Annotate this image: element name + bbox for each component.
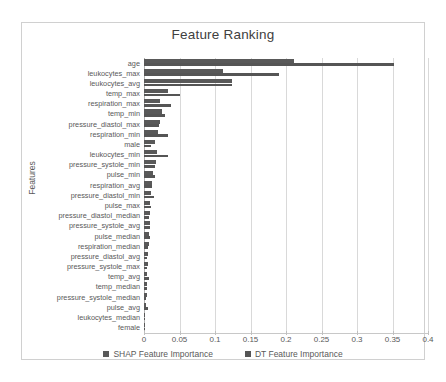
y-axis-tick-label: pressure_systole_max [56, 261, 143, 271]
y-axis-tick-label: pulse_min [56, 170, 143, 180]
bar-row [144, 160, 428, 170]
y-axis-tick-label: temp_max [56, 89, 143, 99]
bar-row [144, 241, 428, 251]
bar-dt [144, 94, 180, 97]
bar-dt [144, 196, 154, 199]
legend-swatch-icon [245, 351, 251, 357]
y-axis-tick-label: pressure_diastol_max [56, 119, 143, 129]
x-axis-tick-label: 0.25 [314, 335, 330, 344]
chart-legend: SHAP Feature ImportanceDT Feature Import… [22, 349, 424, 359]
x-axis-tick-label: 0.05 [172, 335, 188, 344]
y-axis-tick-label: leukocytes_min [56, 150, 143, 160]
bar-shap [144, 99, 160, 103]
bar-dt [144, 165, 155, 168]
y-axis-tick-label: pulse_avg [56, 302, 143, 312]
x-axis-tick-label: 0.1 [209, 335, 220, 344]
legend-swatch-icon [103, 351, 109, 357]
bar-shap [144, 171, 153, 175]
y-axis-tick-label: temp_min [56, 109, 143, 119]
bar-shap [144, 191, 151, 195]
bar-dt [144, 185, 152, 188]
y-axis-tick-label: pressure_diastol_avg [56, 251, 143, 261]
bar-shap [144, 232, 149, 236]
bar-shap [144, 303, 146, 307]
bar-row [144, 282, 428, 292]
y-axis-tick-label: respiration_max [56, 99, 143, 109]
bar-shap [144, 272, 147, 276]
bar-dt [144, 277, 149, 280]
bar-shap [144, 201, 150, 205]
y-axis-tick-label: pressure_diastol_median [56, 211, 143, 221]
y-axis-tick-label: leukocytes_max [56, 68, 143, 78]
bar-row [144, 150, 428, 160]
bar-row [144, 292, 428, 302]
bar-row [144, 190, 428, 200]
bar-shap [144, 89, 168, 93]
bar-dt [144, 257, 147, 260]
bar-shap [144, 69, 223, 73]
bar-row [144, 312, 428, 322]
bar-dt [144, 175, 155, 178]
bar-row [144, 251, 428, 261]
bar-row [144, 129, 428, 139]
y-axis-tick-labels: ageleukocytes_maxleukocytes_avgtemp_maxr… [56, 58, 143, 333]
bar-shap [144, 211, 150, 215]
y-axis-tick-label: respiration_avg [56, 180, 143, 190]
x-axis-tick-label: 0.4 [422, 335, 433, 344]
legend-item[interactable]: DT Feature Importance [245, 349, 343, 359]
bar-row [144, 302, 428, 312]
bar-dt [144, 328, 145, 331]
plot-area [144, 58, 428, 333]
bar-shap [144, 282, 147, 286]
bar-shap [144, 181, 152, 185]
bar-shap [144, 120, 160, 124]
x-axis-tick-label: 0.2 [280, 335, 291, 344]
bar-dt [144, 297, 146, 300]
y-axis-tick-label: respiration_min [56, 129, 143, 139]
y-axis-tick-label: leukocytes_avg [56, 78, 143, 88]
y-axis-tick-label: pressure_systole_min [56, 160, 143, 170]
bar-row [144, 261, 428, 271]
y-axis-tick-label: temp_avg [56, 272, 143, 282]
bar-shap [144, 130, 158, 134]
bar-shap [144, 293, 147, 297]
bar-dt [144, 84, 232, 87]
legend-item[interactable]: SHAP Feature Importance [103, 349, 213, 359]
y-axis-tick-label: pressure_diastol_min [56, 190, 143, 200]
bar-row [144, 231, 428, 241]
bar-shap [144, 221, 150, 225]
bar-shap [144, 79, 232, 83]
bar-row [144, 89, 428, 99]
x-axis-tick-label: 0.35 [385, 335, 401, 344]
y-axis-tick-label: male [56, 139, 143, 149]
bar-row [144, 180, 428, 190]
bar-shap [144, 140, 155, 144]
legend-label: DT Feature Importance [255, 349, 343, 359]
bar-row [144, 99, 428, 109]
bar-row [144, 200, 428, 210]
bar-dt [144, 216, 149, 219]
bar-shap [144, 262, 148, 266]
bar-shap [144, 150, 157, 154]
bar-dt [144, 236, 150, 239]
x-axis-tick-label: 0.15 [243, 335, 259, 344]
bar-dt [144, 206, 151, 209]
bar-dt [144, 73, 279, 76]
bar-dt [144, 307, 148, 310]
bar-rows [144, 58, 428, 333]
bar-dt [144, 267, 147, 270]
y-axis-tick-label: pulse_median [56, 231, 143, 241]
x-axis-tick-labels: 00.050.10.150.20.250.30.350.4 [144, 335, 428, 349]
bar-shap [144, 160, 156, 164]
chart-container: Feature Ranking Features ageleukocytes_m… [21, 22, 425, 360]
y-axis-tick-label: pressure_systole_median [56, 292, 143, 302]
x-axis-tick-label: 0 [142, 335, 146, 344]
y-axis-tick-label: pulse_max [56, 200, 143, 210]
bar-row [144, 58, 428, 68]
bar-dt [144, 124, 159, 127]
bar-row [144, 211, 428, 221]
y-axis-tick-label: pressure_systole_avg [56, 221, 143, 231]
bar-dt [144, 104, 171, 107]
y-axis-title: Features [27, 128, 37, 228]
y-axis-tick-label: leukocytes_median [56, 312, 143, 322]
